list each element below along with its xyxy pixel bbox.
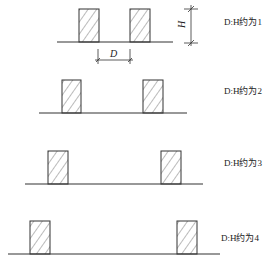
building-block bbox=[30, 221, 50, 254]
building-block bbox=[177, 221, 197, 254]
ratio-label-3: D:H约为3 bbox=[224, 156, 262, 169]
ratio-row-3 bbox=[25, 151, 203, 184]
building-block bbox=[161, 151, 181, 184]
diagram-canvas bbox=[0, 0, 274, 267]
distance-label: D bbox=[110, 48, 117, 59]
ratio-row-4 bbox=[8, 221, 220, 254]
ratio-label-1: D:H约为1 bbox=[224, 15, 262, 28]
ratio-row-2 bbox=[39, 80, 187, 113]
building-block bbox=[62, 80, 81, 113]
building-block bbox=[48, 151, 68, 184]
ratio-label-4: D:H约为4 bbox=[221, 231, 259, 244]
building-block bbox=[143, 80, 163, 113]
ratio-label-2: D:H约为2 bbox=[224, 84, 262, 97]
building-block bbox=[130, 9, 150, 42]
height-label: H bbox=[176, 21, 187, 28]
building-block bbox=[79, 9, 99, 42]
ratio-row-1 bbox=[57, 9, 173, 42]
